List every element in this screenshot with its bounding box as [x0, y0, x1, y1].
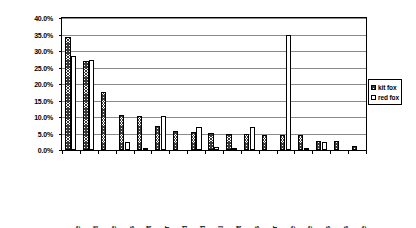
- bar-red-fox: [125, 142, 130, 150]
- legend-item: red fox: [371, 92, 399, 102]
- x-tick-mark: [169, 151, 170, 154]
- x-tick-mark: [134, 151, 135, 154]
- bar-group: [223, 18, 241, 150]
- bar-red-fox: [89, 60, 94, 150]
- x-tick-label: unk murid: [92, 226, 99, 228]
- bar-red-fox: [161, 116, 166, 150]
- x-tick-label: harvest mice: [306, 226, 313, 228]
- bar-group: [330, 18, 348, 150]
- bar-group: [98, 18, 116, 150]
- x-tick-label: deer mice: [110, 226, 117, 228]
- x-tick-label: ants: [253, 226, 260, 228]
- x-tick-label: other arthropods: [128, 226, 135, 228]
- x-tick-mark: [151, 151, 152, 154]
- bar-kit-fox: [262, 135, 267, 151]
- legend-label: kit fox: [378, 84, 396, 91]
- bar-kit-fox: [155, 126, 160, 150]
- bar-group: [116, 18, 134, 150]
- x-tick-mark: [62, 151, 63, 154]
- x-axis-labels: house miceunk muriddeer miceother arthro…: [62, 155, 366, 228]
- x-tick-label: California vole: [289, 226, 296, 228]
- bar-group: [80, 18, 98, 150]
- bar-group: [62, 18, 80, 150]
- x-tick-mark: [205, 151, 206, 154]
- bar-red-fox: [196, 127, 201, 150]
- y-tick-label: 10.0%: [34, 114, 53, 121]
- bar-kit-fox: [83, 61, 88, 150]
- x-tick-label: human derived: [199, 226, 206, 228]
- bar-kit-fox: [173, 131, 178, 150]
- bar-group: [151, 18, 169, 150]
- x-tick-label: pocket gopher: [163, 226, 170, 228]
- bar-group: [169, 18, 187, 150]
- bar-kit-fox: [244, 134, 249, 150]
- y-tick-label: 0.0%: [38, 147, 53, 154]
- y-tick-label: 30.0%: [34, 48, 53, 55]
- y-tick-label: 25.0%: [34, 64, 53, 71]
- x-tick-mark: [259, 151, 260, 154]
- bar-red-fox: [322, 142, 327, 150]
- x-tick-label: pocket mice: [360, 226, 367, 228]
- bar-group: [312, 18, 330, 150]
- x-tick-mark: [98, 151, 99, 154]
- bar-red-fox: [232, 148, 237, 150]
- bar-red-fox: [304, 148, 309, 150]
- y-tick-label: 15.0%: [34, 97, 53, 104]
- bar-red-fox: [71, 56, 76, 150]
- legend-item: kit fox: [371, 82, 399, 92]
- bar-chart: 0.0%5.0%10.0%15.0%20.0%25.0%30.0%35.0%40…: [0, 0, 416, 228]
- bar-kit-fox: [119, 115, 124, 150]
- bar-red-fox: [214, 147, 219, 150]
- legend-label: red fox: [378, 94, 399, 101]
- bar-group: [241, 18, 259, 150]
- bar-group: [348, 18, 366, 150]
- bar-kit-fox: [101, 92, 106, 150]
- chart-legend: kit foxred fox: [368, 79, 402, 105]
- x-tick-label: field cricket: [145, 226, 152, 228]
- bar-red-fox: [286, 35, 291, 151]
- x-tick-mark: [348, 151, 349, 154]
- bar-kit-fox: [352, 146, 357, 150]
- bar-group: [294, 18, 312, 150]
- x-tick-label: leporid: [181, 226, 188, 228]
- x-tick-label: beetles: [324, 226, 331, 228]
- bar-kit-fox: [208, 133, 213, 150]
- x-tick-label: unk mammal: [217, 226, 224, 228]
- x-tick-mark: [187, 151, 188, 154]
- bar-kit-fox: [191, 132, 196, 150]
- bar-group: [134, 18, 152, 150]
- x-tick-mark: [80, 151, 81, 154]
- y-tick-label: 40.0%: [34, 15, 53, 22]
- y-tick-label: 35.0%: [34, 31, 53, 38]
- x-tick-label: grasshopper: [271, 226, 278, 228]
- y-axis: 0.0%5.0%10.0%15.0%20.0%25.0%30.0%35.0%40…: [0, 0, 58, 228]
- legend-swatch-icon: [371, 95, 376, 100]
- legend-swatch-icon: [371, 85, 376, 90]
- bar-kit-fox: [298, 135, 303, 150]
- x-tick-mark: [312, 151, 313, 154]
- x-tick-mark: [366, 151, 367, 154]
- bar-kit-fox: [65, 37, 70, 150]
- bar-group: [277, 18, 295, 150]
- x-tick-label: house mice: [74, 226, 81, 228]
- bar-kit-fox: [334, 141, 339, 150]
- bar-group: [187, 18, 205, 150]
- x-tick-mark: [294, 151, 295, 154]
- x-tick-mark: [330, 151, 331, 154]
- bar-group: [259, 18, 277, 150]
- bar-red-fox: [143, 148, 148, 150]
- bar-group: [205, 18, 223, 150]
- bar-kit-fox: [137, 116, 142, 150]
- bar-kit-fox: [280, 135, 285, 150]
- x-tick-label: unk rodent: [235, 226, 242, 228]
- x-tick-mark: [116, 151, 117, 154]
- x-tick-mark: [241, 151, 242, 154]
- bars-layer: [62, 18, 366, 150]
- bar-kit-fox: [226, 134, 231, 150]
- bar-kit-fox: [316, 141, 321, 150]
- x-tick-label: birds: [342, 226, 349, 228]
- y-tick-label: 20.0%: [34, 81, 53, 88]
- y-tick-label: 5.0%: [38, 130, 53, 137]
- x-tick-mark: [223, 151, 224, 154]
- bar-red-fox: [250, 127, 255, 150]
